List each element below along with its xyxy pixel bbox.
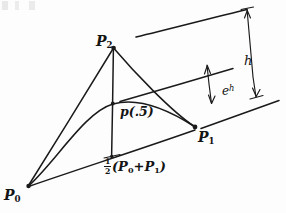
label-p1-base: P	[198, 129, 209, 145]
label-height-scaled: eh	[222, 84, 235, 97]
vertex-dot-p1	[193, 125, 198, 130]
segment-p0-p2	[29, 49, 114, 186]
label-close-paren: )	[160, 159, 166, 174]
label-curve-midpoint: p(.5)	[120, 106, 154, 119]
vertex-dot-curve-midpoint	[111, 102, 115, 106]
vertex-dot-p0	[26, 184, 30, 188]
label-p0-base: P	[4, 187, 15, 203]
label-p1-sub: 1	[209, 136, 215, 146]
label-term-one-base: P	[118, 159, 128, 174]
label-height-full: h	[244, 54, 252, 67]
label-p0-sub: 0	[15, 194, 21, 204]
label-height-scaled-sup: h	[229, 83, 234, 93]
bezier-construction-figure: P2 P1 P0 p(.5) 12(P0+P1) h eh	[0, 0, 286, 213]
dimension-arrowhead-h-bottom	[253, 88, 261, 97]
reference-line-apex-top	[136, 10, 247, 38]
label-p2-base: P	[96, 33, 107, 49]
label-p0: P0	[4, 188, 21, 204]
dimension-arrowhead-eh-bottom	[209, 95, 216, 104]
fraction-denominator: 2	[104, 167, 111, 175]
baseline-extension-right	[201, 101, 279, 129]
label-chord-midpoint: 12(P0+P1)	[104, 158, 166, 176]
label-term-two-base: P	[144, 159, 154, 174]
fraction-numerator: 1	[104, 158, 111, 167]
label-plus: +	[133, 159, 144, 174]
label-chord-midpoint-fraction: 12	[104, 158, 111, 176]
label-p2-sub: 2	[107, 40, 113, 50]
label-p2: P2	[96, 34, 113, 50]
label-p1: P1	[198, 130, 215, 146]
